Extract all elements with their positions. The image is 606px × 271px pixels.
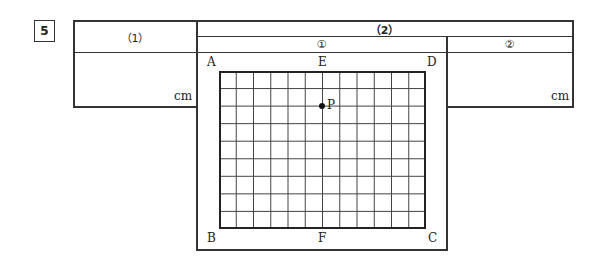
part2-header-label: （2） [370, 21, 400, 37]
grid-figure[interactable] [219, 71, 426, 229]
part1-header: （1） [74, 21, 196, 52]
label-B: B [207, 231, 216, 245]
label-E: E [318, 55, 327, 69]
sub1-header: ① [197, 37, 446, 52]
question-number-box: 5 [34, 20, 55, 42]
question-number: 5 [40, 24, 48, 38]
point-P-dot [319, 103, 325, 109]
grid-svg [219, 71, 426, 229]
sub1-header-label: ① [317, 38, 327, 51]
label-A: A [207, 55, 216, 69]
label-C: C [428, 231, 437, 245]
label-P: P [327, 98, 335, 112]
sub1-bottom-border [196, 249, 448, 251]
sub2-unit: cm [551, 89, 569, 103]
part1-part2-divider [196, 20, 198, 251]
part1-unit: cm [174, 89, 192, 103]
label-F: F [318, 231, 326, 245]
part1-answer-bottom [73, 106, 197, 108]
part1-header-label: （1） [121, 29, 150, 45]
table-right-border [572, 20, 574, 107]
sub2-answer-bottom [446, 106, 574, 108]
part2-header: （2） [197, 21, 572, 36]
label-D: D [427, 55, 437, 69]
sub2-header-label: ② [505, 38, 515, 51]
sub2-header: ② [447, 37, 572, 52]
